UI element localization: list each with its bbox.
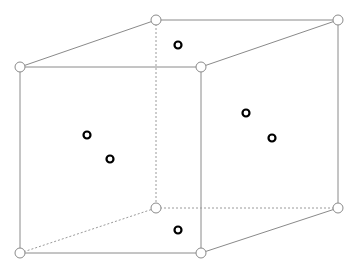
- edge-front-top-right-back-top-right: [201, 20, 338, 67]
- vertex-back-bottom-right: [333, 203, 343, 213]
- vertex-front-bottom-left: [15, 248, 25, 258]
- vertex-back-top-left: [151, 15, 161, 25]
- vertex-front-bottom-right: [196, 248, 206, 258]
- cube-wireframe: [0, 0, 357, 272]
- face-point-front-2: [107, 156, 114, 163]
- hidden-edge-front-bottom-left-back-bottom-left: [20, 208, 156, 253]
- face-point-right-3: [243, 110, 250, 117]
- face-points: [84, 42, 276, 234]
- face-point-bottom-5: [175, 227, 182, 234]
- cube-edges: [20, 20, 338, 253]
- edge-front-top-left-back-top-left: [20, 20, 156, 67]
- vertex-front-top-left: [15, 62, 25, 72]
- vertex-back-bottom-left: [151, 203, 161, 213]
- vertex-back-top-right: [333, 15, 343, 25]
- edge-front-bottom-right-back-bottom-right: [201, 208, 338, 253]
- face-point-right-4: [269, 135, 276, 142]
- face-point-top-0: [175, 42, 182, 49]
- cube-diagram: [0, 0, 357, 272]
- face-point-front-1: [84, 132, 91, 139]
- vertex-front-top-right: [196, 62, 206, 72]
